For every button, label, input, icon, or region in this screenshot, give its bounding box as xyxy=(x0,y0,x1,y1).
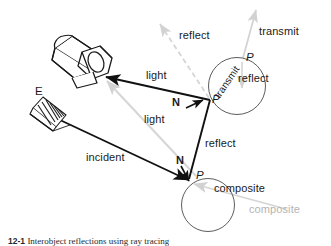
camera-icon xyxy=(52,35,112,88)
eye-label: E xyxy=(35,86,43,97)
label-p-upper-left: P xyxy=(212,94,220,105)
normal-vector-upper xyxy=(186,100,203,108)
figure-caption-text: Interobject reflections using ray tracin… xyxy=(27,236,169,246)
figure-root: E reflect transmit P transmit reflect P … xyxy=(0,0,331,246)
ray-incident xyxy=(60,120,188,180)
light-source-icon xyxy=(30,97,70,131)
label-p-lower: P xyxy=(196,170,204,181)
label-composite-gray: composite xyxy=(249,204,300,215)
label-light-upper: light xyxy=(146,70,167,81)
label-reflect-middle: reflect xyxy=(205,138,236,149)
primary-rays-group xyxy=(60,77,210,181)
label-reflect-in-circle: reflect xyxy=(238,73,269,84)
label-transmit-upper-right: transmit xyxy=(259,26,299,37)
label-light-lower: light xyxy=(144,114,165,125)
label-incident: incident xyxy=(86,152,125,163)
label-reflect-upper-left: reflect xyxy=(179,30,210,41)
label-composite-dark: composite xyxy=(214,183,265,194)
label-p-upper-top: P xyxy=(246,52,254,63)
label-n-upper: N xyxy=(172,97,180,108)
figure-caption: 12-1 Interobject reflections using ray t… xyxy=(8,236,169,246)
label-n-lower: N xyxy=(176,155,184,166)
figure-caption-number: 12-1 xyxy=(8,236,27,246)
